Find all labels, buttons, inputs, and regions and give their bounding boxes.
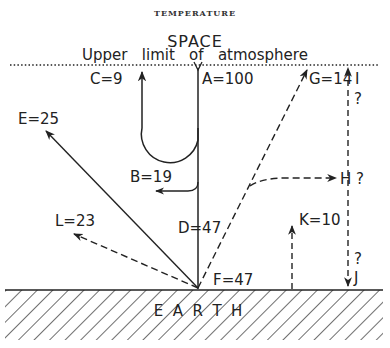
label-b: B=19 (130, 168, 172, 186)
label-e: E=25 (18, 110, 59, 128)
label-f: F=47 (213, 271, 253, 289)
arrow-l (74, 234, 198, 288)
arrow-e (46, 131, 198, 288)
label-i: I (355, 70, 359, 88)
label-g: G=14 (309, 70, 352, 88)
label-k: K=10 (299, 211, 341, 229)
label-d: D=47 (178, 219, 221, 237)
arrow-h (250, 178, 336, 186)
label-c: C=9 (90, 70, 123, 88)
heat-balance-diagram: SPACE Upper limit of atmosphere E A R T … (0, 0, 390, 348)
label-l: L=23 (55, 212, 95, 230)
label-i-question: ? (354, 90, 362, 108)
upper-limit-label: Upper limit of atmosphere (82, 46, 308, 64)
label-a: A=100 (202, 70, 253, 88)
earth-label: E A R T H (154, 302, 243, 320)
label-j-question: ? (354, 250, 362, 268)
label-j: J (353, 269, 358, 287)
arrow-g (198, 70, 307, 288)
label-h: H ? (340, 170, 364, 188)
arrow-c-reflected (141, 72, 198, 163)
